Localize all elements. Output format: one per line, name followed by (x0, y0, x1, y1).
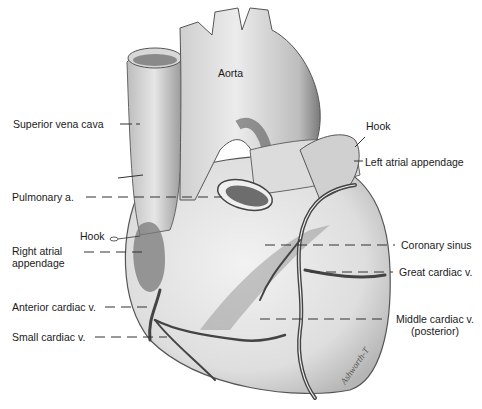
label-superior-vena-cava: Superior vena cava (13, 118, 103, 130)
heart-diagram: Ashworth-T Aorta Superior vena cava Pulm… (0, 0, 482, 409)
heart-illustration: Ashworth-T (0, 0, 482, 409)
label-middle-cardiac-v-line1: Middle cardiac v. (392, 313, 478, 325)
label-hook-right: Hook (80, 230, 105, 242)
label-right-atrial-appendage-line1: Right atrial (12, 245, 62, 257)
label-middle-cardiac-v-line2: (posterior) (392, 325, 478, 337)
label-aorta: Aorta (218, 67, 243, 79)
label-small-cardiac-v: Small cardiac v. (12, 331, 85, 343)
superior-vena-cava (127, 50, 182, 235)
label-hook-left: Hook (366, 120, 391, 132)
label-right-atrial-appendage-line2: appendage (12, 257, 65, 269)
label-coronary-sinus: Coronary sinus (401, 239, 472, 251)
label-left-atrial-appendage: Left atrial appendage (365, 156, 464, 168)
label-pulmonary-a: Pulmonary a. (12, 191, 74, 203)
label-great-cardiac-v: Great cardiac v. (399, 266, 472, 278)
label-anterior-cardiac-v: Anterior cardiac v. (12, 301, 96, 313)
